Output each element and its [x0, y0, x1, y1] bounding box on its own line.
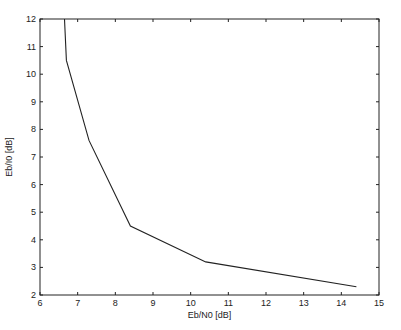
x-tick-label: 10: [186, 298, 196, 308]
y-tick-label: 2: [31, 290, 36, 300]
x-tick-labels: 6789101112131415: [37, 298, 384, 308]
y-tick-label: 7: [31, 152, 36, 162]
x-tick-label: 13: [299, 298, 309, 308]
y-tick-label: 12: [26, 14, 36, 24]
axis-ticks: [40, 19, 379, 295]
y-tick-label: 11: [27, 42, 36, 52]
x-tick-label: 6: [37, 298, 42, 308]
x-tick-label: 14: [336, 298, 346, 308]
x-tick-label: 11: [224, 298, 233, 308]
y-tick-labels: 23456789101112: [26, 14, 36, 300]
y-tick-label: 3: [31, 262, 36, 272]
y-tick-label: 10: [26, 69, 36, 79]
x-axis-label: Eb/N0 [dB]: [188, 310, 232, 320]
y-tick-label: 6: [31, 180, 36, 190]
line-chart: 6789101112131415 23456789101112 Eb/N0 [d…: [0, 0, 401, 330]
y-axis-label: Eb/I0 [dB]: [4, 137, 14, 177]
data-line: [65, 19, 357, 287]
x-tick-label: 15: [374, 298, 384, 308]
x-tick-label: 12: [261, 298, 271, 308]
y-tick-label: 8: [31, 124, 36, 134]
plot-frame: [40, 19, 379, 295]
y-tick-label: 9: [31, 97, 36, 107]
x-tick-label: 9: [150, 298, 155, 308]
x-tick-label: 7: [75, 298, 80, 308]
x-tick-label: 8: [113, 298, 118, 308]
y-tick-label: 4: [31, 235, 36, 245]
y-tick-label: 5: [31, 207, 36, 217]
